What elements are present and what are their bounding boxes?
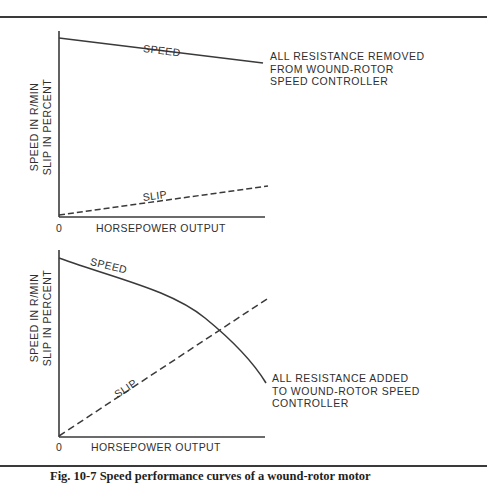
bottom-slip-curve — [59, 299, 267, 436]
top-condition-note: ALL RESISTANCE REMOVED FROM WOUND-ROTOR … — [270, 50, 425, 88]
bottom-condition-note: ALL RESISTANCE ADDED TO WOUND-ROTOR SPEE… — [272, 372, 420, 410]
bottom-y-axis-label-line2: SLIP IN PERCENT — [41, 238, 54, 398]
bottom-note-line: ALL RESISTANCE ADDED — [272, 372, 420, 385]
bottom-note-line: TO WOUND-ROTOR SPEED — [272, 385, 420, 398]
top-note-line: ALL RESISTANCE REMOVED — [270, 50, 425, 63]
top-y-axis-label-line1: SPEED IN R/MIN — [28, 47, 41, 207]
figure-caption: Fig. 10-7 Speed performance curves of a … — [50, 469, 371, 483]
bottom-origin-label: 0 — [56, 441, 62, 453]
bottom-y-axis-label: SPEED IN R/MIN SLIP IN PERCENT — [28, 238, 54, 398]
top-note-line: FROM WOUND-ROTOR — [270, 63, 425, 76]
top-origin-label: 0 — [56, 222, 62, 234]
bottom-y-axis-label-line1: SPEED IN R/MIN — [28, 238, 41, 398]
top-y-axis-label: SPEED IN R/MIN SLIP IN PERCENT — [28, 47, 54, 207]
top-y-axis-label-line2: SLIP IN PERCENT — [41, 47, 54, 207]
bottom-note-line: CONTROLLER — [272, 397, 420, 410]
bottom-x-axis-label: HORSEPOWER OUTPUT — [91, 441, 221, 453]
top-x-axis-label: HORSEPOWER OUTPUT — [96, 222, 226, 234]
top-note-line: SPEED CONTROLLER — [270, 75, 425, 88]
